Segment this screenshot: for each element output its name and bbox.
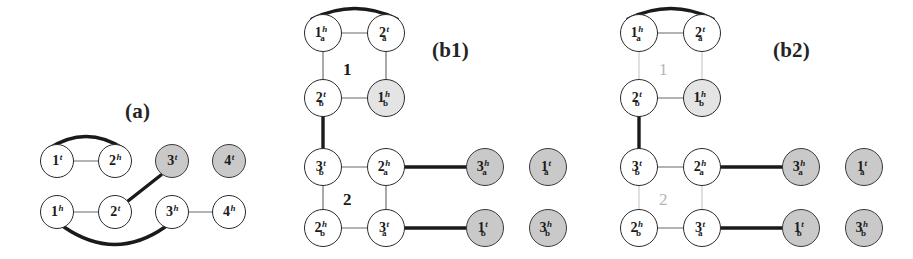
node-label: 2hb xyxy=(314,221,331,235)
node-label: 3ta xyxy=(695,221,709,235)
node-label: 2tb xyxy=(316,91,331,105)
graph-node-b1-1at: 1ta xyxy=(529,148,567,186)
graph-node-a-1h: 1h xyxy=(40,195,74,229)
graph-node-b2-2bt: 2tb xyxy=(620,79,658,117)
graph-node-a-3h: 3h xyxy=(155,195,189,229)
node-label: 2ta xyxy=(695,26,709,40)
graph-node-a-3t: 3t xyxy=(155,144,189,178)
graph-node-b1-2at: 2ta xyxy=(367,14,405,52)
node-label: 1tb xyxy=(794,221,809,235)
panel-label-b2: (b2) xyxy=(773,38,810,63)
graph-node-b2-3bt: 3tb xyxy=(620,148,658,186)
node-label: 1hb xyxy=(693,91,710,105)
graph-node-b1-3bt: 3tb xyxy=(304,148,342,186)
node-label: 2ha xyxy=(694,160,711,174)
node-label: 1ha xyxy=(631,26,648,40)
node-label: 1ha xyxy=(315,26,332,40)
node-label: 4h xyxy=(223,205,235,219)
graph-node-b2-1at: 1ta xyxy=(845,148,883,186)
graph-node-b2-2at: 2ta xyxy=(683,14,721,52)
graph-edge xyxy=(64,227,165,245)
node-label: 1tb xyxy=(478,221,493,235)
node-label: 1hb xyxy=(377,91,394,105)
graph-node-b2-3ah: 3ha xyxy=(782,148,820,186)
node-label: 3hb xyxy=(855,221,872,235)
node-label: 2ha xyxy=(378,160,395,174)
group-label-b2-group-2: 2 xyxy=(659,190,668,210)
graph-edge xyxy=(128,175,161,201)
graph-node-b1-3bh: 3hb xyxy=(529,209,567,247)
graph-node-b2-1bt: 1tb xyxy=(782,209,820,247)
node-label: 3tb xyxy=(632,160,647,174)
graph-node-a-4h: 4h xyxy=(212,195,246,229)
group-label-b2-group-1: 1 xyxy=(659,60,668,80)
graph-node-b2-2ah: 2ha xyxy=(683,148,721,186)
graph-node-a-2h: 2h xyxy=(98,144,132,178)
node-label: 3ta xyxy=(379,221,393,235)
node-label: 3t xyxy=(167,154,177,168)
graph-node-a-4t: 4t xyxy=(212,144,246,178)
graph-node-b1-1bh: 1hb xyxy=(367,79,405,117)
node-label: 3h xyxy=(166,205,178,219)
graph-node-b2-3at: 3ta xyxy=(683,209,721,247)
node-label: 3hb xyxy=(539,221,556,235)
node-label: 2hb xyxy=(630,221,647,235)
node-label: 2tb xyxy=(632,91,647,105)
graph-node-b1-3at: 3ta xyxy=(367,209,405,247)
graph-node-b1-2ah: 2ha xyxy=(367,148,405,186)
node-label: 2t xyxy=(110,205,120,219)
graph-node-b1-2bt: 2tb xyxy=(304,79,342,117)
panel-label-b1: (b1) xyxy=(432,38,469,63)
graph-figure: 1t2h3t4t1h2t3h4h1ha2ta2tb1hb3tb2ha3ha1ta… xyxy=(0,0,913,259)
node-label: 1ta xyxy=(541,160,555,174)
graph-node-b2-1bh: 1hb xyxy=(683,79,721,117)
node-label: 2h xyxy=(109,154,121,168)
group-label-b1-group-1: 1 xyxy=(343,60,352,80)
panel-label-a: (a) xyxy=(125,99,150,124)
node-label: 1h xyxy=(51,205,63,219)
node-label: 2ta xyxy=(379,26,393,40)
graph-node-b1-1bt: 1tb xyxy=(466,209,504,247)
node-label: 3ha xyxy=(793,160,810,174)
node-label: 3ha xyxy=(477,160,494,174)
graph-node-b2-2bh: 2hb xyxy=(620,209,658,247)
node-label: 1ta xyxy=(857,160,871,174)
graph-node-b2-3bh: 3hb xyxy=(845,209,883,247)
graph-node-b2-1ah: 1ha xyxy=(620,14,658,52)
node-label: 4t xyxy=(224,154,234,168)
node-label: 1t xyxy=(52,154,62,168)
graph-node-b1-2bh: 2hb xyxy=(304,209,342,247)
group-label-b1-group-2: 2 xyxy=(343,190,352,210)
graph-node-b1-3ah: 3ha xyxy=(466,148,504,186)
graph-node-b1-1ah: 1ha xyxy=(304,14,342,52)
graph-node-a-1t: 1t xyxy=(40,144,74,178)
node-label: 3tb xyxy=(316,160,331,174)
graph-node-a-2t: 2t xyxy=(98,195,132,229)
